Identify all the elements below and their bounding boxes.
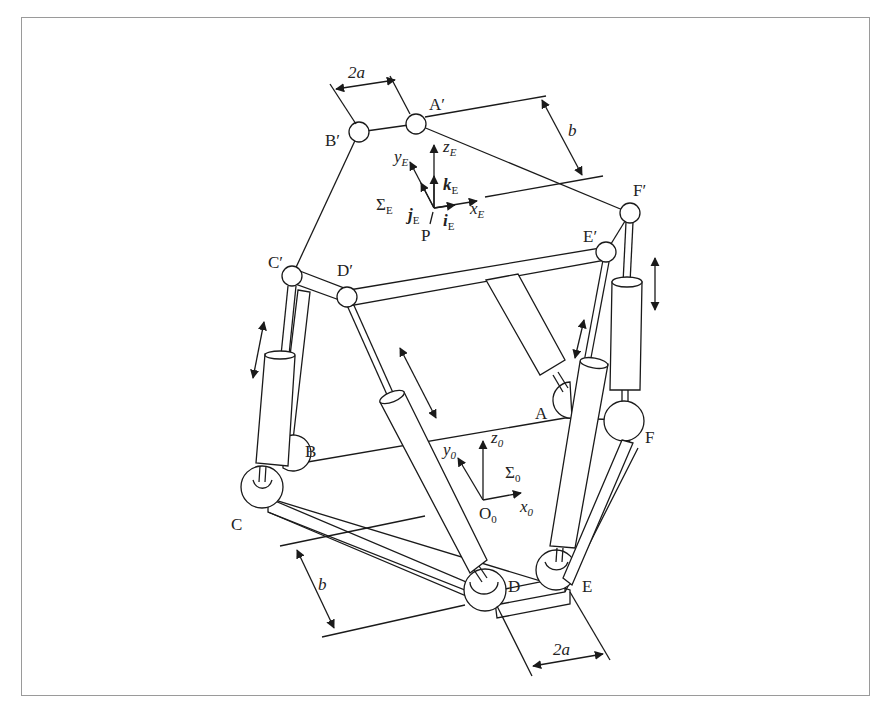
extension-line (322, 605, 465, 637)
leg-C-rod (281, 286, 288, 355)
origin-P-leader (430, 212, 433, 224)
joint-F-ball (604, 401, 644, 441)
joint-C-ball (241, 466, 283, 508)
leg-F-cylinder (610, 282, 642, 390)
dimension-top-2a: 2a (330, 63, 410, 124)
leg-D-rod (352, 301, 394, 395)
origin-P-label: P (421, 226, 430, 245)
x-axis-label: xE (469, 199, 485, 220)
actuation-arrow-A (575, 320, 584, 358)
actuation-arrow-C (253, 322, 264, 378)
i-vector-arrow (434, 205, 455, 208)
dimension-arrow (297, 550, 334, 628)
edge-Bp-Cp (292, 132, 359, 276)
label-A: A (535, 404, 548, 423)
joint-Cp (282, 266, 302, 286)
dim-label-b-base: b (318, 575, 327, 594)
label-C: C (231, 515, 242, 534)
dim-label-2a-top: 2a (348, 63, 365, 82)
joint-Dp (337, 287, 357, 307)
y0-axis-label: y0 (441, 440, 457, 461)
leg-A (486, 274, 572, 418)
leg-C-cylinder (256, 354, 295, 466)
k-vector-label: kE (443, 175, 459, 196)
origin-O0-label: O0 (479, 504, 497, 525)
joint-Ap (406, 114, 426, 134)
leg-D-rod (346, 303, 388, 397)
extension-line (497, 606, 532, 676)
joint-Ep (596, 242, 616, 262)
leg-F-rod (623, 222, 626, 283)
x0-axis-arrow (483, 493, 521, 500)
dimension-arrow (336, 80, 395, 89)
label-Fp: F′ (633, 181, 646, 200)
bar-Dp-Ep (349, 247, 606, 306)
label-D: D (508, 577, 520, 596)
joint-Bp (349, 122, 369, 142)
dim-label-b-top: b (568, 121, 577, 140)
extension-line (570, 592, 610, 660)
x0-axis-label: x0 (519, 497, 534, 518)
leg-C-cylinder-top (265, 351, 295, 359)
leg-F-cylinder-top (612, 277, 642, 287)
y0-axis-arrow (458, 458, 483, 500)
dim-label-2a-base: 2a (553, 640, 570, 659)
joint-A-ball (553, 382, 572, 418)
extension-line (390, 76, 410, 114)
stewart-platform-diagram: 2a b b 2a zE yE kE ΣE jE xE iE P (0, 0, 884, 716)
end-effector-frame: zE yE kE ΣE jE xE iE P (376, 137, 485, 245)
joint-Fp (620, 203, 640, 223)
label-Ap: A′ (429, 95, 445, 114)
leg-E (536, 260, 609, 590)
label-Ep: E′ (583, 227, 597, 246)
leg-A-cylinder (486, 274, 565, 375)
label-E: E (582, 577, 592, 596)
label-B: B (305, 442, 316, 461)
sigma-0-label: Σ0 (505, 463, 521, 484)
label-F: F (645, 428, 654, 447)
sigma-E-label: ΣE (376, 195, 393, 216)
label-Bp: B′ (325, 131, 340, 150)
j-vector-label: jE (405, 205, 420, 226)
j-vector-arrow (421, 183, 434, 208)
extension-line (330, 84, 356, 124)
label-Dp: D′ (337, 261, 353, 280)
leg-F-rod (630, 222, 633, 283)
i-vector-label: iE (443, 211, 455, 232)
leg-C (241, 286, 296, 508)
label-Cp: C′ (268, 253, 283, 272)
y-axis-label: yE (392, 147, 409, 168)
z0-axis-label: z0 (490, 428, 504, 449)
